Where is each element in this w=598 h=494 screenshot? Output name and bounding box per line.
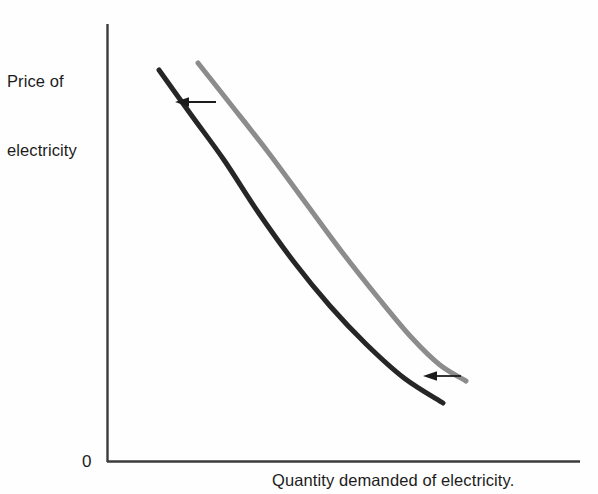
chart-canvas xyxy=(0,0,598,494)
original-demand-curve xyxy=(198,63,466,381)
shifted-demand-curve xyxy=(159,70,443,403)
demand-curve-figure: Price of electricity Quantity demanded o… xyxy=(0,0,598,494)
y-axis-label-line-1: Price of xyxy=(7,70,77,93)
origin-label: 0 xyxy=(82,452,91,472)
y-axis-label: Price of electricity xyxy=(7,24,77,208)
x-axis-label: Quantity demanded of electricity. xyxy=(272,469,514,492)
y-axis-label-line-2: electricity xyxy=(7,139,77,162)
